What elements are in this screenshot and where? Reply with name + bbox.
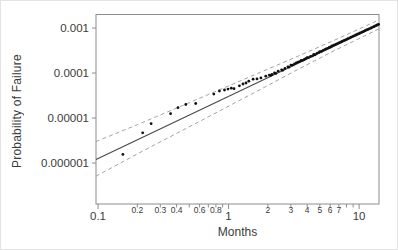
data-point [122, 153, 125, 156]
data-point [238, 84, 241, 87]
y-tick-label: 0.000001 [41, 157, 89, 169]
chart-canvas: 0.0010.00010.000010.0000010.10.20.30.40.… [1, 1, 398, 250]
y-axis-title: Probability of Failure [7, 15, 27, 207]
x-tick-label: 0.8 [210, 205, 222, 215]
x-tick-label: 3 [288, 205, 293, 215]
x-tick-label: 0.4 [171, 205, 183, 215]
data-point [242, 83, 245, 86]
data-point [141, 131, 144, 134]
data-point [281, 69, 284, 72]
data-point [212, 93, 215, 96]
data-point [377, 23, 380, 26]
data-point [223, 89, 226, 92]
data-point [252, 78, 255, 81]
y-tick-label: 0.0001 [54, 67, 89, 79]
x-tick-label: 5 [317, 205, 322, 215]
data-point [169, 112, 172, 115]
data-point [274, 72, 277, 75]
data-point [288, 66, 291, 69]
data-point [177, 106, 180, 109]
x-tick-label: 0.2 [131, 205, 143, 215]
data-points [122, 23, 381, 156]
data-point [218, 90, 221, 93]
data-point [150, 122, 153, 125]
x-tick-label: 0.3 [154, 205, 166, 215]
confidence-band-lower [96, 29, 379, 176]
failure-probability-plot: 0.0010.00010.000010.0000010.10.20.30.40.… [0, 0, 398, 250]
x-tick-label: 6 [328, 205, 333, 215]
data-point [256, 78, 259, 81]
data-point [245, 82, 248, 85]
data-point [271, 73, 274, 76]
x-tick-label: 7 [337, 205, 342, 215]
confidence-band-upper [96, 20, 379, 142]
x-tick-label: 2 [266, 205, 271, 215]
y-tick-label: 0.001 [60, 22, 89, 34]
data-point [184, 103, 187, 106]
y-tick-label: 0.00001 [47, 112, 89, 124]
x-axis-title: Months [96, 225, 379, 239]
x-tick-label: 1 [225, 210, 231, 222]
data-point [284, 67, 287, 70]
data-point [194, 102, 197, 105]
x-tick-label: 0.6 [194, 205, 206, 215]
data-point [233, 87, 236, 90]
data-point [277, 70, 280, 73]
x-tick-label: 0.1 [90, 210, 106, 222]
data-point [230, 87, 233, 90]
data-point [247, 80, 250, 83]
x-tick-label: 4 [305, 205, 310, 215]
x-tick-label: 10 [353, 210, 366, 222]
data-point [264, 75, 267, 78]
data-point [260, 77, 263, 80]
data-point [227, 88, 230, 91]
